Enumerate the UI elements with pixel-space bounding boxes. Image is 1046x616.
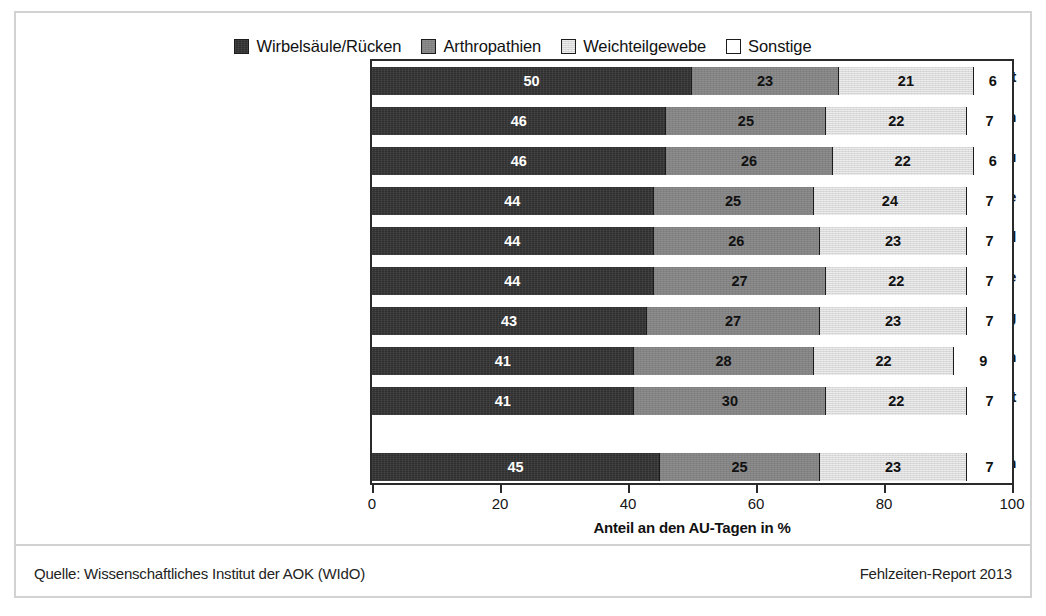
legend-entry[interactable]: Sonstige [726, 37, 811, 56]
bar-row[interactable]: 4425247 [372, 187, 1012, 215]
bar-row[interactable]: 4327237 [372, 307, 1012, 335]
bar-segment[interactable]: 6 [974, 147, 1012, 175]
bar-segment[interactable]: 41 [372, 387, 634, 415]
bar-value-label: 9 [979, 353, 987, 369]
bar-segment[interactable]: 27 [647, 307, 820, 335]
bar-segment[interactable]: 43 [372, 307, 647, 335]
bar-value-label: 24 [882, 193, 898, 209]
bar-segment[interactable]: 22 [826, 387, 967, 415]
bar-segment[interactable]: 6 [974, 67, 1012, 95]
bar-segment[interactable]: 22 [826, 267, 967, 295]
legend-entry[interactable]: Weichteilgewebe [561, 37, 706, 56]
bar-segment[interactable]: 23 [692, 67, 839, 95]
bar-row[interactable]: 4525237 [372, 453, 1012, 481]
x-tick-label: 20 [492, 495, 509, 512]
bar-value-label: 46 [511, 113, 527, 129]
legend-entry[interactable]: Arthropathien [421, 37, 541, 56]
bar-segment[interactable]: 27 [654, 267, 827, 295]
bar-segment[interactable]: 7 [967, 107, 1012, 135]
bar-segment[interactable]: 26 [654, 227, 820, 255]
bar-segment[interactable]: 7 [967, 453, 1012, 481]
x-axis-title: Anteil an den AU-Tagen in % [370, 519, 1014, 536]
bar-value-label: 25 [725, 193, 741, 209]
x-tick-label: 100 [999, 495, 1024, 512]
bar-segment[interactable]: 44 [372, 187, 654, 215]
x-tick-label: 0 [368, 495, 376, 512]
bar-segment[interactable]: 9 [954, 347, 1012, 375]
bar-row[interactable]: 4426237 [372, 227, 1012, 255]
legend-swatch-icon [234, 39, 249, 54]
x-tick-mark [372, 485, 374, 493]
bar-row[interactable]: 4128229 [372, 347, 1012, 375]
x-tick-mark [756, 485, 758, 493]
bar-segment[interactable]: 46 [372, 107, 666, 135]
bar-value-label: 27 [725, 313, 741, 329]
chart-footer: Quelle: Wissenschaftliches Institut der … [16, 553, 1030, 593]
bar-segment[interactable]: 46 [372, 147, 666, 175]
bar-segment[interactable]: 7 [967, 187, 1012, 215]
bar-row[interactable]: 4427227 [372, 267, 1012, 295]
legend-label: Arthropathien [443, 37, 541, 56]
bar-segment[interactable]: 45 [372, 453, 660, 481]
bar-value-label: 25 [738, 113, 754, 129]
bar-row[interactable]: 5023216 [372, 67, 1012, 95]
bar-row[interactable]: 4625227 [372, 107, 1012, 135]
bar-value-label: 22 [888, 273, 904, 289]
bar-segment[interactable]: 7 [967, 227, 1012, 255]
bar-segment[interactable]: 21 [839, 67, 973, 95]
bar-value-label: 7 [986, 193, 994, 209]
x-tick-label: 60 [748, 495, 765, 512]
bar-segment[interactable]: 22 [814, 347, 955, 375]
bar-segment[interactable]: 25 [660, 453, 820, 481]
report-note: Fehlzeiten-Report 2013 [860, 565, 1012, 582]
bar-segment[interactable]: 50 [372, 67, 692, 95]
bar-value-label: 21 [898, 73, 914, 89]
bar-value-label: 41 [495, 393, 511, 409]
bar-value-label: 7 [986, 393, 994, 409]
legend-label: Weichteilgewebe [583, 37, 706, 56]
bar-segment[interactable]: 7 [967, 307, 1012, 335]
bar-value-label: 7 [986, 313, 994, 329]
bar-value-label: 7 [986, 459, 994, 475]
bar-segment[interactable]: 23 [820, 227, 967, 255]
legend-entry[interactable]: Wirbelsäule/Rücken [234, 37, 401, 56]
bar-value-label: 27 [731, 273, 747, 289]
bar-value-label: 7 [986, 233, 994, 249]
bar-segment[interactable]: 24 [814, 187, 968, 215]
x-tick-mark [628, 485, 630, 493]
bar-segment[interactable]: 22 [826, 107, 967, 135]
bar-segment[interactable]: 44 [372, 267, 654, 295]
bar-segment[interactable]: 25 [654, 187, 814, 215]
bar-segment[interactable]: 22 [833, 147, 974, 175]
bar-value-label: 23 [885, 459, 901, 475]
x-tick-mark [884, 485, 886, 493]
plot-box: 5023216462522746262264425247442623744272… [370, 59, 1014, 485]
bar-segment[interactable]: 23 [820, 453, 967, 481]
bar-value-label: 22 [895, 153, 911, 169]
bar-segment[interactable]: 26 [666, 147, 832, 175]
bar-value-label: 44 [504, 273, 520, 289]
bar-value-label: 44 [504, 233, 520, 249]
chart-legend: Wirbelsäule/RückenArthropathienWeichteil… [16, 33, 1030, 59]
x-tick-mark [500, 485, 502, 493]
bar-value-label: 45 [507, 459, 523, 475]
bar-segment[interactable]: 7 [967, 387, 1012, 415]
x-axis-tickmarks [370, 485, 1014, 493]
legend-swatch-icon [726, 39, 741, 54]
bar-row[interactable]: 4626226 [372, 147, 1012, 175]
bar-value-label: 26 [741, 153, 757, 169]
bar-segment[interactable]: 41 [372, 347, 634, 375]
bar-value-label: 30 [722, 393, 738, 409]
legend-swatch-icon [561, 39, 576, 54]
bar-segment[interactable]: 23 [820, 307, 967, 335]
x-tick-label: 40 [620, 495, 637, 512]
bar-value-label: 43 [501, 313, 517, 329]
bar-row[interactable]: 4130227 [372, 387, 1012, 415]
bar-segment[interactable]: 28 [634, 347, 813, 375]
bar-value-label: 22 [875, 353, 891, 369]
bar-segment[interactable]: 44 [372, 227, 654, 255]
bar-segment[interactable]: 25 [666, 107, 826, 135]
bar-segment[interactable]: 30 [634, 387, 826, 415]
bar-segment[interactable]: 7 [967, 267, 1012, 295]
legend-swatch-icon [421, 39, 436, 54]
